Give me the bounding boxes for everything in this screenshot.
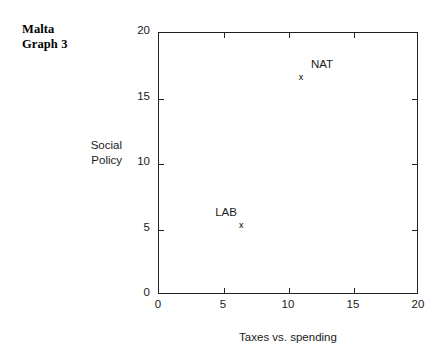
y-axis-tick bbox=[159, 230, 164, 231]
y-axis-tick-label: 10 bbox=[112, 155, 150, 167]
x-axis-tick-label: 20 bbox=[398, 298, 438, 310]
x-axis-tick-label: 10 bbox=[268, 298, 308, 310]
y-axis-tick-label: 0 bbox=[112, 286, 150, 298]
y-axis-tick-label: 5 bbox=[112, 221, 150, 233]
x-axis-tick bbox=[224, 288, 225, 293]
y-axis-tick-label: 20 bbox=[112, 24, 150, 36]
data-point-marker: x bbox=[237, 221, 246, 230]
x-axis-tick-top bbox=[289, 33, 290, 38]
x-axis-tick bbox=[289, 288, 290, 293]
data-point-marker: x bbox=[297, 73, 306, 82]
y-axis-tick-label: 15 bbox=[112, 90, 150, 102]
chart-title: Malta Graph 3 bbox=[22, 22, 68, 52]
y-axis-title: Social Policy bbox=[44, 138, 122, 168]
x-axis-tick-top bbox=[224, 33, 225, 38]
data-point-label: LAB bbox=[215, 206, 237, 218]
x-axis-tick-label: 15 bbox=[333, 298, 373, 310]
x-axis-tick bbox=[354, 288, 355, 293]
y-axis-tick-right bbox=[412, 230, 417, 231]
x-axis-tick-label: 5 bbox=[203, 298, 243, 310]
scatter-chart: Malta Graph 3 Social Policy Taxes vs. sp… bbox=[0, 0, 441, 355]
y-axis-tick-right bbox=[412, 164, 417, 165]
plot-area bbox=[158, 32, 418, 294]
x-axis-tick-top bbox=[354, 33, 355, 38]
x-axis-tick-label: 0 bbox=[138, 298, 178, 310]
y-axis-tick-right bbox=[412, 99, 417, 100]
data-point-label: NAT bbox=[311, 58, 333, 70]
y-axis-tick bbox=[159, 99, 164, 100]
y-axis-tick bbox=[159, 164, 164, 165]
x-axis-title: Taxes vs. spending bbox=[158, 331, 418, 343]
